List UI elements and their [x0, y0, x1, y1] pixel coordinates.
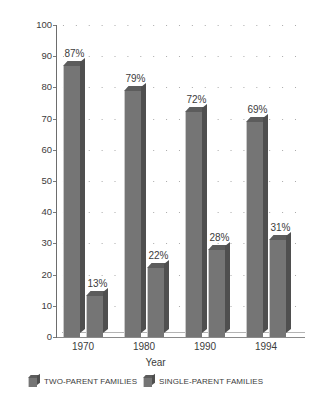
bar-value-label: 69%: [238, 104, 278, 115]
bar-front-face: [185, 112, 202, 337]
bar-side-face: [202, 104, 207, 333]
y-axis-ticks: 0102030405060708090100: [0, 0, 52, 407]
bar-side-face: [103, 289, 108, 333]
legend-label: TWO-PARENT FAMILIES: [44, 377, 137, 386]
gridline: [57, 25, 303, 26]
y-tick-label: 0: [6, 332, 52, 342]
bar-side-face: [80, 58, 85, 333]
bar-side-face: [286, 232, 291, 333]
plot-area: 87%13%79%22%72%28%69%31%: [57, 25, 303, 337]
y-tick-label: 100: [6, 20, 52, 30]
bar-value-label: 31%: [261, 222, 301, 233]
bar-value-label: 22%: [139, 250, 179, 261]
x-tick-label: 1980: [114, 341, 174, 353]
bar-value-label: 87%: [55, 48, 95, 59]
bar-side-face: [141, 83, 146, 333]
x-tick-label: 1970: [53, 341, 113, 353]
gridline: [57, 87, 303, 88]
y-tick-label: 20: [6, 270, 52, 280]
bar[interactable]: [208, 250, 225, 337]
y-tick-label: 40: [6, 207, 52, 217]
bar[interactable]: [63, 66, 80, 337]
bar-value-label: 72%: [177, 94, 217, 105]
bar[interactable]: [185, 112, 202, 337]
y-tick-label: 90: [6, 51, 52, 61]
bar-front-face: [147, 268, 164, 337]
y-tick-label: 50: [6, 176, 52, 186]
y-tick-label: 60: [6, 145, 52, 155]
legend-swatch-icon: [143, 378, 152, 387]
bar[interactable]: [269, 240, 286, 337]
bar-front-face: [124, 91, 141, 337]
bar-value-label: 28%: [200, 232, 240, 243]
bar-front-face: [63, 66, 80, 337]
bar-front-face: [208, 250, 225, 337]
bar[interactable]: [124, 91, 141, 337]
bar-value-label: 13%: [78, 278, 118, 289]
bar[interactable]: [86, 296, 103, 337]
legend-label: SINGLE-PARENT FAMILIES: [159, 377, 263, 386]
bar-value-label: 79%: [116, 73, 156, 84]
bar[interactable]: [147, 268, 164, 337]
legend-item-single-parent[interactable]: SINGLE-PARENT FAMILIES: [143, 376, 263, 387]
legend-item-two-parent[interactable]: TWO-PARENT FAMILIES: [28, 376, 137, 387]
x-tick-label: 1994: [236, 341, 296, 353]
bar-front-face: [269, 240, 286, 337]
chart-legend: TWO-PARENT FAMILIES SINGLE-PARENT FAMILI…: [0, 376, 311, 398]
bar-front-face: [86, 296, 103, 337]
y-tick-label: 80: [6, 82, 52, 92]
legend-swatch-icon: [28, 378, 37, 387]
x-axis-title: Year: [0, 357, 311, 368]
bar-chart: 0102030405060708090100 87%13%79%22%72%28…: [0, 0, 311, 407]
bar-side-face: [225, 242, 230, 333]
x-axis-line: [57, 337, 305, 338]
x-tick-label: 1990: [175, 341, 235, 353]
bar-side-face: [164, 260, 169, 333]
y-tick-label: 30: [6, 238, 52, 248]
y-tick-label: 10: [6, 301, 52, 311]
y-tick-label: 70: [6, 114, 52, 124]
